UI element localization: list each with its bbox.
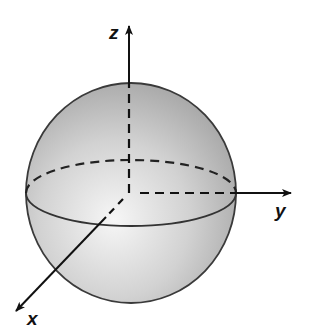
y-axis-label: y: [274, 200, 287, 221]
sphere-diagram: z y x: [0, 0, 314, 335]
z-axis-label: z: [108, 22, 119, 43]
x-axis-label: x: [26, 308, 39, 329]
